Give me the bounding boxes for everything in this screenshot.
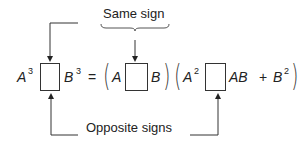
sign-box-factor1 [125,63,148,91]
sign-box-lhs [40,63,60,91]
exponent-factor2-a: 2 [194,66,199,76]
sign-box-factor2 [205,63,226,91]
exponent-a: 3 [28,66,33,76]
equals-sign: = [88,69,96,85]
close-paren-2: ) [291,58,298,93]
opposite-signs-label: Opposite signs [86,120,172,135]
factor1-b: B [151,69,160,85]
open-paren-2: ( [174,58,181,93]
factor2-b: B [273,69,282,85]
factor2-ab: AB [229,69,248,85]
close-paren-1: ) [163,58,170,93]
sum-difference-of-cubes-diagram: Same sign Opposite signs A 3 B 3 = ( A B… [0,0,306,151]
term-b: B [64,69,73,85]
same-sign-label: Same sign [103,6,164,21]
factor2-a: A [183,69,192,85]
term-a: A [17,69,26,85]
exponent-b: 3 [76,66,81,76]
factor1-a: A [112,69,121,85]
open-paren-1: ( [103,58,110,93]
exponent-factor2-b: 2 [284,66,289,76]
plus-sign: + [259,69,267,85]
